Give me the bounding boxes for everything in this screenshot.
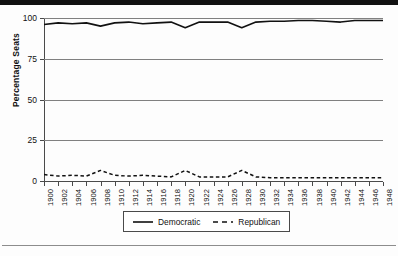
y-tick-label-25: 25 xyxy=(28,136,37,145)
x-tick-1902 xyxy=(58,182,59,186)
gridline-50 xyxy=(44,100,383,101)
y-axis-title: Percentage Seats xyxy=(11,10,21,130)
x-tick-label-1942: 1942 xyxy=(344,189,352,206)
x-tick-1908 xyxy=(101,182,102,186)
x-tick-1948 xyxy=(383,182,384,186)
x-tick-label-1930: 1930 xyxy=(259,189,267,206)
x-tick-1940 xyxy=(327,182,328,186)
x-tick-label-1936: 1936 xyxy=(301,189,309,206)
series-line-democratic xyxy=(44,20,383,27)
chart-page: Percentage Seats 0255075100 190019021904… xyxy=(0,0,398,256)
y-tick-label-75: 75 xyxy=(28,55,37,64)
x-tick-1914 xyxy=(143,182,144,186)
legend-label-republican: Republican xyxy=(238,217,280,227)
x-tick-label-1932: 1932 xyxy=(273,189,281,206)
x-tick-1906 xyxy=(86,182,87,186)
x-tick-1918 xyxy=(171,182,172,186)
x-tick-label-1940: 1940 xyxy=(330,189,338,206)
x-tick-label-1918: 1918 xyxy=(174,189,182,206)
y-tick-label-100: 100 xyxy=(23,14,37,23)
x-tick-1904 xyxy=(72,182,73,186)
y-tick-25 xyxy=(40,140,44,141)
x-tick-label-1920: 1920 xyxy=(188,189,196,206)
x-tick-1932 xyxy=(270,182,271,186)
x-tick-1920 xyxy=(185,182,186,186)
x-tick-1936 xyxy=(298,182,299,186)
x-tick-1934 xyxy=(284,182,285,186)
legend-label-democratic: Democratic xyxy=(158,217,200,227)
y-tick-label-50: 50 xyxy=(28,95,37,104)
x-tick-label-1944: 1944 xyxy=(358,189,366,206)
x-tick-1922 xyxy=(199,182,200,186)
x-tick-label-1914: 1914 xyxy=(146,189,154,206)
legend-entry-republican: Republican xyxy=(213,217,280,227)
x-tick-label-1938: 1938 xyxy=(316,189,324,206)
x-tick-1938 xyxy=(312,182,313,186)
x-tick-label-1934: 1934 xyxy=(287,189,295,206)
y-tick-50 xyxy=(40,100,44,101)
x-tick-1924 xyxy=(214,182,215,186)
gridline-75 xyxy=(44,59,383,60)
x-tick-1900 xyxy=(44,182,45,186)
x-tick-1942 xyxy=(341,182,342,186)
y-tick-75 xyxy=(40,59,44,60)
x-tick-label-1904: 1904 xyxy=(75,189,83,206)
x-tick-label-1910: 1910 xyxy=(118,189,126,206)
x-tick-1946 xyxy=(369,182,370,186)
chart-legend: Democratic Republican xyxy=(123,211,290,232)
legend-swatch-dashed-icon xyxy=(213,218,233,226)
x-tick-1910 xyxy=(115,182,116,186)
y-tick-label-0: 0 xyxy=(32,177,37,186)
x-tick-label-1900: 1900 xyxy=(47,189,55,206)
x-tick-1926 xyxy=(228,182,229,186)
x-tick-label-1928: 1928 xyxy=(245,189,253,206)
series-line-republican xyxy=(44,170,383,177)
x-tick-label-1902: 1902 xyxy=(61,189,69,206)
x-tick-label-1908: 1908 xyxy=(104,189,112,206)
x-tick-1928 xyxy=(242,182,243,186)
x-tick-label-1916: 1916 xyxy=(160,189,168,206)
gridline-25 xyxy=(44,140,383,141)
x-tick-label-1906: 1906 xyxy=(90,189,98,206)
x-tick-label-1948: 1948 xyxy=(386,189,394,206)
x-tick-1944 xyxy=(355,182,356,186)
legend-entry-democratic: Democratic xyxy=(133,217,200,227)
x-tick-label-1946: 1946 xyxy=(372,189,380,206)
gridline-100 xyxy=(44,18,383,19)
plot-area: 0255075100 xyxy=(44,18,383,181)
x-tick-label-1912: 1912 xyxy=(132,189,140,206)
x-tick-label-1924: 1924 xyxy=(217,189,225,206)
x-tick-1930 xyxy=(256,182,257,186)
chart-figure: Percentage Seats 0255075100 190019021904… xyxy=(0,5,398,245)
x-tick-label-1922: 1922 xyxy=(203,189,211,206)
x-tick-1916 xyxy=(157,182,158,186)
bottom-divider xyxy=(2,245,396,246)
y-tick-100 xyxy=(40,18,44,19)
x-tick-1912 xyxy=(129,182,130,186)
legend-swatch-solid-icon xyxy=(133,218,153,226)
x-tick-label-1926: 1926 xyxy=(231,189,239,206)
